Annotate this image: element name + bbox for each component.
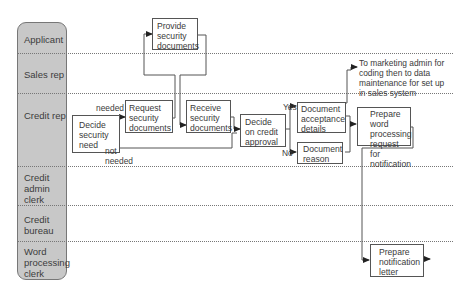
step-receive-security-documents[interactable]: Receive security documents — [186, 100, 231, 133]
step-prepare-word-processing-request[interactable]: Prepare word processing request for noti… — [357, 107, 411, 146]
note-to-marketing-admin: To marketing admin for coding then to da… — [359, 58, 453, 98]
edge-label-yes: Yes — [283, 102, 297, 112]
step-request-security-documents[interactable]: Request security documents — [125, 100, 173, 133]
step-label: Receive security documents — [190, 103, 232, 133]
step-decide-on-credit-approval[interactable]: Decide on credit approval — [240, 114, 286, 147]
step-prepare-notification-letter[interactable]: Prepare notification letter — [370, 244, 424, 277]
step-label: Document reason — [303, 144, 342, 164]
edge-label-not-needed: not needed — [105, 146, 133, 166]
step-label: Provide security documents — [157, 21, 199, 51]
step-label: Prepare notification letter — [379, 247, 420, 277]
step-label: Decide on credit approval — [245, 117, 278, 147]
step-label: Document acceptance details — [301, 104, 345, 134]
step-document-reason[interactable]: Document reason — [297, 142, 343, 164]
step-label: Request security documents — [129, 103, 171, 133]
edge-label-needed: needed — [96, 103, 124, 113]
step-document-acceptance-details[interactable]: Document acceptance details — [297, 102, 346, 133]
edge-label-no: No — [282, 148, 293, 158]
step-provide-security-documents[interactable]: Provide security documents — [152, 18, 198, 50]
step-label: Prepare word processing request for noti… — [370, 109, 412, 169]
